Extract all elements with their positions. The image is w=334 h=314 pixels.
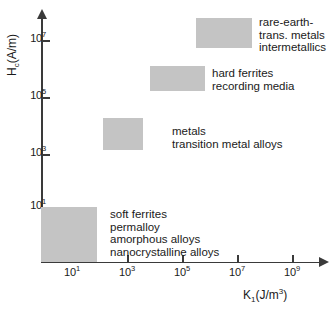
x-tick-mark-3 bbox=[237, 255, 239, 262]
chart-figure: 107 105 103 101 101 103 105 107 109 Hc(A… bbox=[0, 0, 334, 314]
x-tick-label-0: 101 bbox=[64, 266, 80, 278]
data-region-metals-transition-alloys bbox=[103, 118, 143, 150]
annotation-soft-magnetic-materials: soft ferrites permalloy amorphous alloys… bbox=[110, 208, 219, 258]
data-region-hard-ferrites bbox=[150, 66, 205, 91]
annotation-rare-earth-intermetallics: rare-earth- trans. metals intermetallics bbox=[259, 16, 326, 54]
y-tick-label-2: 103 bbox=[30, 146, 46, 158]
annotation-hard-ferrites: hard ferrites recording media bbox=[212, 67, 294, 92]
x-tick-label-3: 107 bbox=[229, 266, 245, 278]
annotation-metals-transition-alloys: metals transition metal alloys bbox=[172, 125, 283, 150]
x-tick-label-2: 105 bbox=[174, 266, 190, 278]
x-axis-arrow-icon bbox=[319, 257, 329, 267]
x-tick-label-4: 109 bbox=[284, 266, 300, 278]
y-axis-arrow-icon bbox=[37, 9, 47, 19]
y-tick-label-0: 107 bbox=[30, 32, 46, 44]
x-axis-title: K1(J/m3) bbox=[243, 288, 287, 302]
data-region-rare-earth-intermetallics bbox=[196, 18, 252, 48]
y-tick-label-1: 105 bbox=[30, 89, 46, 101]
data-region-soft-magnetic-materials bbox=[41, 207, 97, 262]
y-axis-title: Hc(A/m) bbox=[5, 25, 19, 85]
x-tick-mark-4 bbox=[292, 255, 294, 262]
x-tick-label-1: 103 bbox=[119, 266, 135, 278]
